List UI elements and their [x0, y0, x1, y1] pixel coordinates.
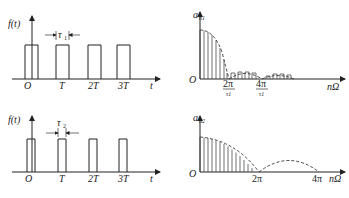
tick-label: T	[59, 173, 66, 184]
tick-2pi-tau1: 2π	[223, 78, 233, 89]
x-axis-label: nΩ	[327, 81, 339, 92]
tick-label: O	[24, 80, 31, 91]
tick-label: 3T	[117, 173, 130, 184]
spectrum-top: a n1 O 2π τ1 4π τ1 nΩ	[189, 9, 345, 97]
pulse	[119, 139, 127, 172]
pulse-train-bottom: τ 2 f(t) O T 2T 3T t	[8, 114, 160, 184]
tau2-label: τ	[57, 117, 61, 128]
pulse	[88, 45, 101, 79]
svg-text:2: 2	[63, 123, 66, 129]
origin-label: O	[189, 168, 196, 179]
origin-label: O	[189, 74, 196, 85]
y-axis-label: f(t)	[8, 18, 21, 30]
svg-text:n2: n2	[199, 118, 205, 124]
tick-label: 3T	[117, 80, 130, 91]
spectral-lines	[200, 137, 252, 172]
tick-2pi: 2π	[252, 173, 262, 184]
envelope	[200, 137, 259, 172]
svg-text:τ1: τ1	[259, 91, 264, 97]
tau1-label: τ	[58, 29, 62, 40]
tick-4pi-tau1: 4π	[256, 78, 266, 89]
y-axis-label: a	[193, 112, 198, 123]
x-axis-label: t	[150, 80, 153, 91]
pulse	[27, 139, 35, 172]
tick-4pi: 4π	[312, 173, 322, 184]
figure-canvas: τ 1 f(t) O T 2T 3T t	[0, 0, 349, 198]
y-axis-label: a	[193, 9, 198, 20]
pulse	[117, 45, 130, 79]
tick-label: 2T	[88, 173, 100, 184]
x-axis-label: nΩ	[329, 173, 341, 184]
pulse-train-top: τ 1 f(t) O T 2T 3T t	[8, 16, 160, 91]
pulse	[56, 45, 69, 79]
envelope	[200, 30, 229, 79]
tick-label: T	[59, 80, 66, 91]
svg-text:1: 1	[64, 35, 67, 41]
tick-label: 2T	[88, 80, 100, 91]
y-axis-label: f(t)	[8, 114, 21, 126]
svg-text:n1: n1	[199, 15, 205, 21]
x-axis-label: t	[150, 173, 153, 184]
tick-label: O	[25, 173, 32, 184]
pulse	[89, 139, 97, 172]
svg-text:τ1: τ1	[226, 91, 231, 97]
pulse	[58, 139, 66, 172]
spectrum-bottom: a n2 O 2π 4π nΩ	[189, 112, 345, 184]
envelope	[259, 161, 319, 173]
